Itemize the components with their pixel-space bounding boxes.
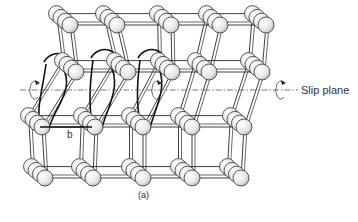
atom [184,119,200,135]
atom [164,64,180,80]
atom [120,64,136,80]
atom [163,17,179,33]
atom [258,17,274,33]
atom [212,17,228,33]
atom [85,170,101,186]
atom [135,170,151,186]
slip-plane-label: Slip plane [301,84,349,96]
atom [37,170,53,186]
screw-dislocation-diagram [0,0,358,222]
atom [68,64,84,80]
burgers-vector-label: b [67,129,73,140]
atom [135,119,151,135]
figure-caption: (a) [138,190,149,200]
atom [184,170,200,186]
lattice-bonds [29,14,270,178]
atom [201,64,217,80]
atom [254,64,270,80]
atom [62,17,78,33]
atom [233,170,249,186]
atom [236,119,252,135]
atom [109,17,125,33]
